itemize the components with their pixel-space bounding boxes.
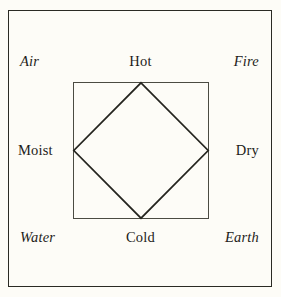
quality-label-moist: Moist (18, 143, 53, 158)
quality-label-dry: Dry (236, 143, 259, 158)
quality-label-hot: Hot (0, 54, 281, 69)
inner-diamond-outline (73, 82, 209, 219)
diamond-shape (74, 83, 208, 218)
elements-qualities-diagram: Air Fire Water Earth Hot Moist Dry Cold (0, 0, 281, 297)
quality-label-cold: Cold (0, 230, 281, 245)
